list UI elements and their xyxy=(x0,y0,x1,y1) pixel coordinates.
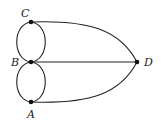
node-a xyxy=(29,100,34,105)
edge-b-a-right xyxy=(31,62,45,102)
edge-a-d xyxy=(31,62,137,102)
node-d xyxy=(135,60,140,65)
graph-diagram: C B A D xyxy=(0,0,161,123)
label-b: B xyxy=(11,57,19,68)
node-c xyxy=(29,20,34,25)
label-c: C xyxy=(21,8,29,19)
label-d: D xyxy=(144,57,153,68)
edge-c-b-right xyxy=(31,22,45,62)
node-b xyxy=(29,60,34,65)
edge-c-d xyxy=(31,22,137,62)
label-a: A xyxy=(27,109,35,120)
